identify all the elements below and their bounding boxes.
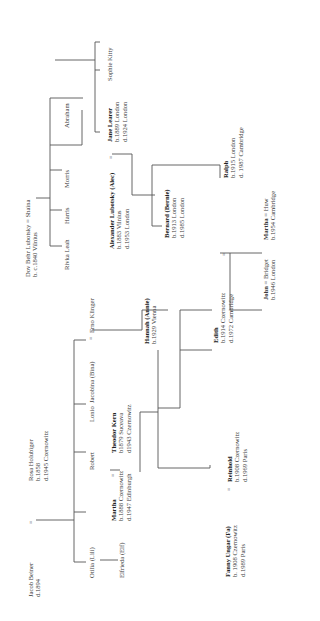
person-otilia: Otilia (Lili) — [88, 547, 95, 578]
person-robert: Robert — [88, 452, 95, 470]
person-name: Rivka Leah — [63, 239, 70, 270]
person-name: Abraham — [63, 103, 70, 128]
person-name: Fanny Ungar (Fa) — [224, 525, 231, 577]
person-bernard: Bernard (Bernie) b.1913 London d.1985 Lo… — [163, 189, 185, 238]
person-alexander: Alexander Lubotsky (Alec) b.1883 Vilnius… — [108, 173, 130, 249]
person-dov-behr: Dov Behr Lubotsky = Shaina b. c.1840 Vil… — [24, 200, 39, 277]
person-detail: b. c.1840 Vilnius — [31, 200, 38, 277]
person-theodor-kern: Theodor Kern b1879 Suceava d1943 Czernow… — [110, 404, 132, 453]
person-name: Martha — [262, 218, 269, 240]
marriage-symbol: = — [262, 213, 269, 217]
person-name: Harris — [63, 208, 70, 224]
person-name: Edith — [212, 293, 219, 343]
person-erno-klinger: Erno Klinger — [88, 298, 95, 333]
person-fanny-ungar: Fanny Ungar (Fa) b. 1908 Czernowitz d.19… — [224, 525, 246, 577]
person-detail: b.1915 London — [229, 127, 236, 178]
person-name: Otilia (Lili) — [88, 547, 95, 578]
person-martha: Martha b.1888 Czernowitz d.1947 Edinburg… — [110, 471, 132, 521]
person-name: Jane Learer — [106, 102, 113, 142]
person-name: Jacob Beiner — [27, 563, 34, 597]
person-name: Theodor Kern — [110, 404, 117, 453]
person-detail: b.1858 — [34, 431, 41, 481]
person-detail: b.1883 Vilnius — [115, 173, 122, 249]
person-jacobina: Jacobina (Bina) — [88, 361, 95, 403]
person-sophie-kitty: Sophie Kitty — [106, 47, 113, 81]
person-martha-grandchild: Martha = Huw b.1954 Cambridge — [262, 191, 277, 240]
person-rivka-leah: Rivka Leah — [63, 239, 70, 270]
person-detail: b.1946 London — [269, 259, 276, 300]
person-rosa-holubiger: Rosa Holubiger b.1858 d.1945 Czernowitz — [27, 431, 49, 481]
person-name: Erno Klinger — [88, 298, 95, 333]
person-name: Elfrieda (Elf) — [118, 543, 125, 578]
person-detail: d.1947 Edinburgh — [125, 471, 132, 521]
person-detail: b. 1908 Czernowitz — [231, 525, 238, 577]
person-jane-learer: Jane Learer b.1889 London d.1924 London — [106, 102, 128, 142]
marriage-symbol: = — [24, 219, 31, 223]
person-detail: d.1945 Czernowitz — [42, 431, 49, 481]
person-detail: d.1985 London — [178, 189, 185, 238]
person-elfrieda: Elfrieda (Elf) — [118, 543, 125, 578]
marriage-symbol: = — [262, 281, 269, 285]
person-edith: Edith b.1914 Czernowitz d.1972 Cambridge — [212, 293, 234, 343]
person-ralph: Ralph b.1915 London d. 1987 Cambridge — [222, 127, 244, 178]
person-detail: d1943 Czernowitz — [125, 404, 132, 453]
person-detail: b.1929 Vienna — [150, 298, 157, 344]
marriage-symbol: = — [110, 474, 116, 477]
person-detail: d.1894 — [34, 563, 41, 597]
person-name: Hannah (Annie) — [143, 298, 150, 344]
person-jacob-beiner: Jacob Beiner d.1894 — [27, 563, 42, 597]
person-detail: d. 1987 Cambridge — [237, 127, 244, 178]
person-name-spouse: Shaina — [24, 200, 31, 218]
person-john: John = Bridget b.1946 London — [262, 259, 277, 300]
person-reinhold: Reinhold b.1908 Czernowitz d.1969 Paris — [226, 432, 248, 482]
person-detail: b.1888 Czernowitz — [117, 471, 124, 521]
person-detail: b1879 Suceava — [117, 404, 124, 453]
person-name: Jacobina (Bina) — [88, 361, 95, 403]
person-detail: b.1913 London — [170, 189, 177, 238]
person-detail: d.1953 London — [123, 173, 130, 249]
person-name: Reinhold — [226, 432, 233, 482]
person-hannah: Hannah (Annie) b.1929 Vienna — [143, 298, 158, 344]
person-name: Rosa Holubiger — [27, 431, 34, 481]
person-name: Bernard (Bernie) — [163, 189, 170, 238]
person-detail: d.1972 Cambridge — [227, 293, 234, 343]
person-name: Dov Behr Lubotsky — [24, 225, 31, 277]
person-detail: b.1908 Czernowitz — [233, 432, 240, 482]
person-detail: d.1924 London — [121, 102, 128, 142]
marriage-symbol: = — [221, 253, 227, 256]
person-name: Lonio — [88, 406, 95, 422]
person-detail: b.1889 London — [113, 102, 120, 142]
person-harris: Harris — [63, 208, 70, 224]
marriage-symbol: = — [108, 156, 114, 159]
person-name-spouse: Bridget — [262, 259, 269, 279]
marriage-symbol: = — [226, 488, 232, 491]
person-detail: b.1954 Cambridge — [269, 191, 276, 240]
person-lonio: Lonio — [88, 406, 95, 422]
marriage-symbol: = — [28, 521, 34, 524]
person-detail: d.1969 Paris — [241, 432, 248, 482]
person-abraham: Abraham — [63, 103, 70, 128]
person-detail: d.1989 Paris — [239, 525, 246, 577]
person-name: John — [262, 286, 269, 300]
person-name: Ralph — [222, 127, 229, 178]
person-name: Morris — [63, 170, 70, 188]
person-name-spouse: Huw — [262, 199, 269, 212]
marriage-symbol: = — [88, 337, 94, 340]
person-detail: b.1914 Czernowitz — [219, 293, 226, 343]
person-name: Sophie Kitty — [106, 47, 113, 81]
person-name: Robert — [88, 452, 95, 470]
person-morris: Morris — [63, 170, 70, 188]
person-name: Alexander Lubotsky (Alec) — [108, 173, 115, 249]
person-name: Martha — [110, 471, 117, 521]
